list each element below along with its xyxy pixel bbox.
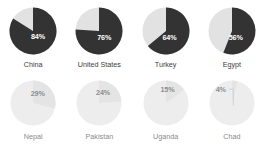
pie-svg bbox=[208, 7, 256, 55]
pie-category-label: China bbox=[24, 61, 43, 68]
pie-svg bbox=[76, 80, 122, 126]
pie-svg bbox=[9, 7, 57, 55]
pie-svg bbox=[10, 80, 56, 126]
pie-value-label: 24% bbox=[96, 89, 110, 96]
pie-chart-chad: 4% bbox=[209, 80, 255, 126]
pie-chart-grid: 84%China76%United States64%Turkey56%Egyp… bbox=[0, 0, 265, 151]
pie-chart-united-states: 76% bbox=[75, 7, 123, 55]
pie-value-label: 84% bbox=[31, 33, 45, 40]
pie-chart-cell-uganda: 15%Uganda bbox=[133, 72, 199, 151]
pie-category-label: Turkey bbox=[155, 61, 177, 68]
pie-chart-uganda: 15% bbox=[143, 80, 189, 126]
pie-chart-china: 84% bbox=[9, 7, 57, 55]
pie-chart-egypt: 56% bbox=[208, 7, 256, 55]
pie-value-label: 15% bbox=[160, 87, 174, 94]
pie-chart-cell-nepal: 29%Nepal bbox=[0, 72, 66, 151]
pie-category-label: Uganda bbox=[153, 133, 178, 140]
pie-chart-pakistan: 24% bbox=[76, 80, 122, 126]
pie-category-label: Chad bbox=[223, 133, 240, 140]
pie-chart-cell-egypt: 56%Egypt bbox=[199, 0, 265, 72]
pie-value-label: 64% bbox=[162, 34, 176, 41]
pie-chart-cell-pakistan: 24%Pakistan bbox=[66, 72, 132, 151]
pie-chart-nepal: 29% bbox=[10, 80, 56, 126]
pie-chart-cell-turkey: 64%Turkey bbox=[133, 0, 199, 72]
pie-value-label: 56% bbox=[229, 34, 243, 41]
pie-chart-turkey: 64% bbox=[142, 7, 190, 55]
pie-category-label: Pakistan bbox=[86, 133, 114, 140]
pie-category-label: Egypt bbox=[223, 61, 241, 68]
pie-svg bbox=[75, 7, 123, 55]
pie-value-label: 4% bbox=[216, 87, 226, 94]
pie-chart-cell-united-states: 76%United States bbox=[66, 0, 132, 72]
pie-value-label: 76% bbox=[97, 34, 111, 41]
pie-category-label: Nepal bbox=[24, 133, 43, 140]
pie-category-label: United States bbox=[78, 61, 121, 68]
pie-chart-cell-chad: 4%Chad bbox=[199, 72, 265, 151]
pie-chart-cell-china: 84%China bbox=[0, 0, 66, 72]
pie-svg bbox=[142, 7, 190, 55]
pie-value-label: 29% bbox=[31, 90, 45, 97]
